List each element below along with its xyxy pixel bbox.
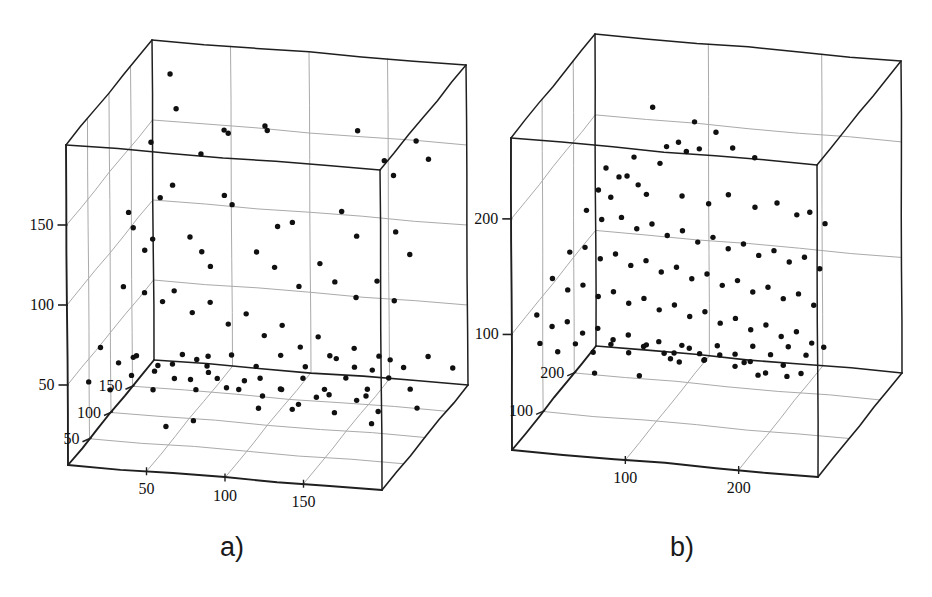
scatter-point: [222, 193, 227, 198]
scatter-point: [750, 344, 755, 349]
scatter-point: [142, 290, 147, 295]
scatter-point: [262, 333, 267, 338]
scatter-point: [339, 209, 344, 214]
scatter-point: [774, 200, 779, 205]
scatter-point: [425, 354, 430, 359]
scatter-point: [590, 350, 595, 355]
scatter-point: [187, 234, 192, 239]
scatter-point: [644, 192, 649, 197]
tick-label-y: 200: [474, 210, 498, 227]
scatter-point: [322, 387, 327, 392]
scatter-point: [626, 350, 631, 355]
scatter-point: [603, 165, 608, 170]
scatter-point: [393, 229, 398, 234]
scatter-point: [392, 298, 397, 303]
scatter-point: [565, 319, 570, 324]
scatter-point: [781, 296, 786, 301]
scatter-point: [674, 265, 679, 270]
scatter-point: [155, 363, 160, 368]
scatter-point: [752, 205, 757, 210]
scatter-point: [635, 182, 640, 187]
scatter-point: [167, 71, 172, 76]
scatter-point: [726, 192, 731, 197]
scatter-point: [689, 276, 694, 281]
tick-label-z: 100: [77, 404, 101, 421]
scatter-point: [272, 265, 277, 270]
scatter-point: [732, 364, 737, 369]
scatter-point: [803, 352, 808, 357]
scatter-point: [376, 353, 381, 358]
scatter-point: [679, 193, 684, 198]
scatter-point: [150, 387, 155, 392]
tick-label-x: 100: [213, 487, 237, 504]
scatter-point: [756, 253, 761, 258]
scatter-point: [391, 173, 396, 178]
scatter-point: [784, 374, 789, 379]
scatter-point: [807, 210, 812, 215]
scatter-point: [765, 285, 770, 290]
scatter-point: [158, 195, 163, 200]
scatter-point: [657, 307, 662, 312]
scatter-point: [121, 284, 126, 289]
scatter-point: [236, 387, 241, 392]
scatter-point: [170, 361, 175, 366]
scatter-point: [354, 398, 359, 403]
scatter-point: [634, 226, 639, 231]
scatter-point: [86, 379, 91, 384]
scatter-point: [126, 210, 131, 215]
scatter-point: [741, 241, 746, 246]
scatter-point: [763, 370, 768, 375]
scatter-point: [116, 360, 121, 365]
tick-label-x: 150: [292, 493, 316, 510]
scatter-point: [407, 252, 412, 257]
scatter-point: [413, 138, 418, 143]
scatter-point: [332, 410, 337, 415]
scatter-point: [198, 151, 203, 156]
scatter-point: [278, 353, 283, 358]
scatter-point: [550, 276, 555, 281]
scatter-point: [215, 376, 220, 381]
scatter-point: [822, 221, 827, 226]
tick-label-y: 150: [30, 216, 54, 233]
scatter-point: [794, 212, 799, 217]
scatter-point: [354, 233, 359, 238]
scatter-point: [631, 154, 636, 159]
scatter-point: [414, 405, 419, 410]
scatter-point: [781, 362, 786, 367]
scatter-point: [596, 187, 601, 192]
scatter-point: [582, 245, 587, 250]
tick-label-z: 50: [64, 430, 80, 447]
scatter-point: [296, 284, 301, 289]
scatter-point: [150, 236, 155, 241]
scatter-point: [641, 296, 646, 301]
scatter-point: [242, 378, 247, 383]
scatter-point: [687, 314, 692, 319]
scatter-point: [226, 321, 231, 326]
scatter-point: [598, 256, 603, 261]
scatter-point: [626, 300, 631, 305]
scatter-point: [787, 259, 792, 264]
figure-3d-scatter-pair: 501001505010015050100150 100200100200100…: [0, 0, 932, 597]
scatter-point: [243, 311, 248, 316]
scatter-point: [809, 340, 814, 345]
scatter-point: [254, 249, 259, 254]
scatter-point: [619, 215, 624, 220]
scatter-point: [580, 282, 585, 287]
scatter-point: [580, 330, 585, 335]
tick-label-y: 100: [30, 296, 54, 313]
scatter-point: [172, 376, 177, 381]
scatter-point: [567, 249, 572, 254]
scatter-point: [676, 140, 681, 145]
scatter-point: [713, 130, 718, 135]
scatter-point: [332, 279, 337, 284]
scatter-point: [802, 255, 807, 260]
scatter-point: [279, 387, 284, 392]
scatter-point: [253, 364, 258, 369]
scatter-point: [188, 377, 193, 382]
scatter-point: [730, 145, 735, 150]
scatter-point: [644, 342, 649, 347]
figure-canvas: 501001505010015050100150 100200100200100…: [0, 0, 932, 597]
scatter-point: [208, 264, 213, 269]
scatter-point: [717, 352, 722, 357]
scatter-point: [317, 261, 322, 266]
